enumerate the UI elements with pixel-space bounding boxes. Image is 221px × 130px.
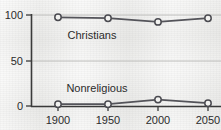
series-nonreligious: Nonreligious bbox=[55, 82, 211, 107]
y-axis-label-50: 50 bbox=[11, 55, 23, 67]
y-axis-ticks bbox=[26, 15, 31, 106]
x-axis-label-1950: 1950 bbox=[96, 114, 120, 126]
line-chart: 100 50 0 1900 1950 2000 2050 Christians … bbox=[0, 0, 221, 130]
x-axis-label-2050: 2050 bbox=[196, 114, 220, 126]
x-axis-label-2000: 2000 bbox=[146, 114, 170, 126]
x-axis-label-1900: 1900 bbox=[46, 114, 70, 126]
y-axis-label-100: 100 bbox=[5, 9, 23, 21]
data-point-nonreligious-1950 bbox=[105, 101, 111, 107]
data-point-nonreligious-2050 bbox=[205, 100, 211, 106]
series-label-christians: Christians bbox=[68, 29, 117, 41]
y-axis-label-0: 0 bbox=[17, 100, 23, 112]
data-point-christians-2050 bbox=[205, 15, 211, 21]
data-point-nonreligious-1900 bbox=[55, 101, 61, 107]
series-line-christians bbox=[58, 17, 208, 22]
series-line-nonreligious bbox=[58, 100, 208, 105]
data-point-christians-1950 bbox=[105, 15, 111, 21]
series-label-nonreligious: Nonreligious bbox=[66, 82, 128, 94]
x-axis-labels: 1900 1950 2000 2050 bbox=[46, 114, 220, 126]
data-point-nonreligious-2000 bbox=[155, 96, 161, 102]
chart-canvas: 100 50 0 1900 1950 2000 2050 Christians … bbox=[0, 0, 221, 130]
series-christians: Christians bbox=[55, 14, 211, 41]
y-axis-labels: 100 50 0 bbox=[5, 9, 23, 112]
data-point-christians-1900 bbox=[55, 14, 61, 20]
gridlines bbox=[31, 15, 221, 61]
data-point-christians-2000 bbox=[155, 19, 161, 25]
